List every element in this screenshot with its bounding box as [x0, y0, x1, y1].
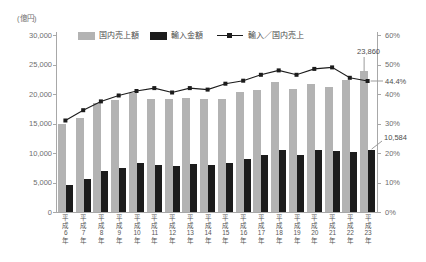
ratio-line-marker: [99, 99, 103, 103]
ratio-line-marker: [277, 68, 281, 72]
ratio-line-marker: [170, 91, 174, 95]
line-overlay: [0, 0, 426, 262]
leader-last-import: [372, 141, 382, 149]
ratio-line-marker: [135, 89, 139, 93]
ratio-line-marker: [188, 86, 192, 90]
ratio-line-marker: [241, 79, 245, 83]
ratio-line-marker: [117, 94, 121, 98]
ratio-line-marker: [223, 82, 227, 86]
chart: (億円) 国内売上額 輸入金額 輸入／国内売上 30,00025,00020,0…: [0, 0, 426, 262]
ratio-line-marker: [259, 73, 263, 77]
ratio-line-marker: [81, 108, 85, 112]
ratio-line-marker: [295, 73, 299, 77]
ratio-line-marker: [366, 79, 370, 83]
ratio-line: [65, 67, 367, 120]
ratio-line-svg: [0, 0, 426, 262]
ratio-line-marker: [348, 76, 352, 80]
ratio-line-marker: [330, 65, 334, 69]
ratio-line-marker: [63, 119, 67, 123]
annotation-last-import: 10,584: [384, 133, 407, 142]
annotation-last-ratio: 44.4%: [385, 77, 406, 86]
ratio-line-marker: [312, 67, 316, 71]
ratio-line-marker: [152, 86, 156, 90]
annotation-last-domestic-sales: 23,860: [340, 47, 380, 56]
ratio-line-marker: [206, 88, 210, 92]
